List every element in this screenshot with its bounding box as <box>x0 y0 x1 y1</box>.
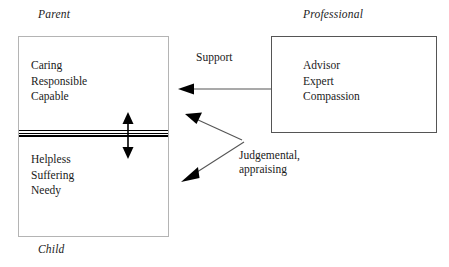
support-arrow-head <box>178 84 194 95</box>
divider-rule-middle <box>19 133 168 134</box>
child-header-label: Child <box>38 243 65 255</box>
judgemental-lower-head <box>181 167 200 182</box>
judgemental-arrow-upper <box>185 113 242 141</box>
support-arrow <box>178 84 271 95</box>
parent-traits-text: Caring Responsible Capable <box>31 58 87 105</box>
diagram-canvas: Parent Professional Child Caring Respons… <box>0 0 449 267</box>
child-traits-text: Helpless Suffering Needy <box>31 152 74 199</box>
judgemental-upper-line <box>196 119 242 140</box>
professional-traits-text: Advisor Expert Compassion <box>303 58 360 105</box>
divider-rule-top <box>19 130 168 131</box>
parent-header-label: Parent <box>38 8 70 20</box>
professional-header-label: Professional <box>303 8 363 20</box>
parent-child-divider <box>19 130 168 137</box>
divider-rule-bottom <box>19 135 168 136</box>
judgemental-lower-line <box>194 142 244 174</box>
judgemental-upper-head <box>185 113 202 125</box>
judgemental-edge-label: Judgemental, appraising <box>239 148 300 176</box>
judgemental-arrow-lower <box>181 142 244 182</box>
support-edge-label: Support <box>196 50 232 64</box>
